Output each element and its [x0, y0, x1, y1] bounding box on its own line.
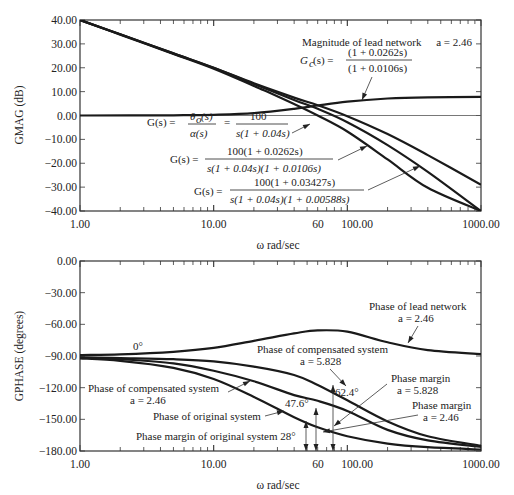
x-tick-label: 60 — [312, 218, 324, 230]
y-tick-label: −30.00 — [45, 181, 78, 193]
arrowhead-icon — [303, 124, 310, 129]
gc-label: G — [300, 54, 308, 66]
y-tick-label: −20.00 — [45, 157, 78, 169]
lead-magnitude-a-value: a = 2.46 — [436, 36, 472, 48]
comp-5828-phase-label: Phase of compensated system — [257, 343, 388, 355]
phase-margin-5828-a-value: a = 5.828 — [397, 384, 439, 396]
phase-margin-246-label: Phase margin — [412, 399, 472, 411]
x-tick-label: 100.00 — [341, 218, 373, 230]
y-tick-label: −30.00 — [45, 287, 78, 299]
y-tick-label: −180.00 — [39, 445, 77, 457]
phase-margin-5828-label: Phase margin — [391, 372, 451, 384]
y-tick-label: 10.00 — [51, 86, 77, 98]
y-tick-label: 30.00 — [51, 38, 77, 50]
g-comp-246-denominator: s(1 + 0.04s)(1 + 0.0106s) — [207, 162, 321, 175]
y-tick-label: 0.00 — [57, 110, 77, 122]
annotation-text: (s) — [201, 110, 213, 123]
g-comp-246-label: G(s) = — [170, 153, 199, 166]
gc-numerator: (1 + 0.0262s) — [348, 46, 407, 59]
y-axis-title: GMAG (dB) — [13, 85, 26, 144]
x-tick-label: 10.00 — [201, 218, 227, 230]
gc-denominator: (1 + 0.0106s) — [348, 62, 407, 75]
phase-margin-62-4-label: 62.4° — [335, 386, 359, 398]
g-original-denominator: s(1 + 0.04s) — [236, 127, 290, 140]
x-axis-title: ω rad/sec — [256, 239, 299, 251]
y-tick-label: −120.00 — [39, 382, 77, 394]
y-tick-label: 40.00 — [51, 14, 77, 26]
phase-margin-47-6-label: 47.6° — [285, 397, 309, 409]
g-comp-246-numerator: 100(1 + 0.0262s) — [227, 145, 303, 158]
arrowhead-icon — [304, 444, 309, 451]
annotation-text: 100 — [250, 110, 267, 122]
lead-phase-label: Phase of lead network — [369, 300, 467, 312]
x-tick-label: 1000.00 — [462, 218, 500, 230]
annotation-text: α(s) — [190, 127, 208, 140]
y-tick-label: −90.00 — [45, 350, 78, 362]
series-line-3 — [80, 97, 481, 116]
arrowhead-icon — [243, 381, 250, 386]
y-tick-label: −60.00 — [45, 318, 78, 330]
annotation-text: = — [224, 116, 230, 128]
comp-246-phase-label: Phase of compensated system — [88, 382, 219, 394]
arrowhead-icon — [360, 146, 367, 151]
g-original-label: G(s) = — [147, 116, 176, 129]
arrowhead-icon — [408, 336, 414, 343]
zero-degree-label: 0° — [133, 340, 143, 352]
arrowhead-icon — [314, 408, 319, 415]
arrowhead-icon — [334, 420, 341, 426]
x-tick-label: 10.00 — [201, 458, 227, 470]
phase-annotations: 0°Phase of lead networka = 2.46Phase of … — [88, 300, 472, 451]
x-tick-label: 60 — [312, 458, 324, 470]
plot-frame — [80, 261, 481, 451]
annotation-text: (s) = — [313, 54, 334, 67]
phase-margin-246-a-value: a = 2.46 — [423, 411, 459, 423]
lead-phase-a-value: a = 2.46 — [398, 312, 434, 324]
g-comp-5828-label: G(s) = — [194, 185, 223, 198]
x-tick-label: 1.00 — [70, 458, 90, 470]
original-phase-label: Phase of original system — [153, 410, 261, 422]
x-tick-label: 1.00 — [70, 218, 90, 230]
comp-5828-a-value: a = 5.828 — [300, 355, 342, 367]
y-axis-title: GPHASE (degrees) — [13, 311, 26, 402]
g-comp-5828-denominator: s(1 + 0.04s)(1 + 0.00588s) — [230, 193, 350, 206]
phase-margin-original-label: Phase margin of original system 28° — [136, 430, 296, 442]
y-tick-label: −40.00 — [45, 205, 78, 217]
comp-246-a-value: a = 2.46 — [130, 394, 166, 406]
bode-plot-figure: 40.0030.0020.0010.000.00−10.00−20.00−30.… — [0, 0, 514, 495]
y-tick-label: −150.00 — [39, 413, 77, 425]
x-tick-label: 1000.00 — [462, 458, 500, 470]
x-tick-label: 100.00 — [341, 458, 373, 470]
y-tick-label: 20.00 — [51, 62, 77, 74]
x-axis-title: ω rad/sec — [256, 479, 299, 491]
arrowhead-icon — [413, 166, 420, 171]
g-comp-5828-numerator: 100(1 + 0.03427s) — [254, 176, 335, 189]
y-tick-label: −10.00 — [45, 133, 78, 145]
y-tick-label: 0.00 — [57, 255, 77, 267]
